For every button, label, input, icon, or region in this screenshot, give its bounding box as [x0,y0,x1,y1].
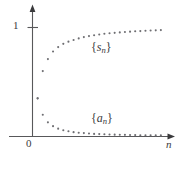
data-point [62,129,64,131]
data-point [139,134,141,136]
data-point [67,41,69,43]
sequence-convergence-figure: 1 0 n {sn} {an} [0,0,181,180]
data-point [160,134,162,136]
data-point [47,121,49,123]
data-point [150,134,152,136]
series-an-label: {an} [91,112,113,126]
y-axis-arrow-icon [30,5,36,13]
data-point [160,29,162,31]
data-point [83,36,85,38]
origin-label: 0 [26,138,32,149]
data-point [129,31,131,33]
data-point [103,133,105,135]
data-point [155,29,157,31]
sn-brace-close: } [106,40,112,54]
an-brace-close: } [107,111,113,125]
data-point [119,134,121,136]
data-point [124,134,126,136]
data-point [103,33,105,35]
data-point [88,35,90,37]
data-point [155,134,157,136]
data-point [67,130,69,132]
data-point [114,134,116,136]
data-point [37,97,39,99]
data-point [144,30,146,32]
data-point [52,125,54,127]
x-axis-label: n [166,139,172,150]
data-point [83,132,85,134]
data-point [134,30,136,32]
plot-area [0,0,181,180]
data-point [93,133,95,135]
data-point [93,34,95,36]
data-point [47,58,49,60]
data-point [52,50,54,52]
data-point [98,33,100,35]
data-point [108,32,110,34]
data-point [119,31,121,33]
data-point [42,114,44,116]
data-point [114,32,116,34]
data-point [108,133,110,135]
data-point [78,37,80,39]
data-point [73,39,75,41]
data-point [88,133,90,135]
data-point [134,134,136,136]
data-point [144,134,146,136]
data-point [129,134,131,136]
series-sn-label: {sn} [91,41,112,55]
data-point [62,43,64,45]
data-point [73,131,75,133]
y-axis-tick-label-one: 1 [13,20,19,31]
data-point [139,30,141,32]
data-point [98,133,100,135]
data-point [57,128,59,130]
data-point [124,31,126,33]
data-point [57,46,59,48]
data-point [78,132,80,134]
data-point [150,30,152,32]
data-point [42,70,44,72]
